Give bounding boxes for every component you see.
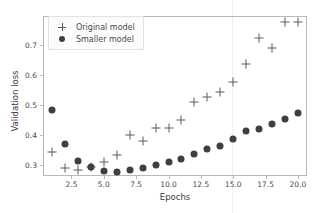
y-tick-label: 0.3	[25, 160, 37, 169]
y-tick	[40, 45, 43, 46]
x-tick-label: 17.5	[257, 180, 274, 189]
x-tick	[298, 176, 299, 179]
x-tick-label: 5.0	[98, 180, 110, 189]
x-tick-label: 7.5	[130, 180, 142, 189]
y-tick	[40, 75, 43, 76]
x-tick	[136, 176, 137, 179]
x-tick-label: 10.0	[160, 180, 177, 189]
x-tick	[169, 176, 170, 179]
legend-item-smaller-model: Smaller model	[54, 33, 135, 45]
legend-item-original-model: Original model	[54, 21, 135, 33]
legend-label: Smaller model	[70, 35, 134, 44]
x-axis-label: Epochs	[43, 192, 307, 202]
x-tick	[201, 176, 202, 179]
x-tick	[104, 176, 105, 179]
y-tick	[40, 105, 43, 106]
y-tick-label: 0.4	[25, 130, 37, 139]
y-tick-label: 0.6	[25, 71, 37, 80]
dot-marker-icon	[54, 33, 70, 45]
y-tick	[40, 135, 43, 136]
y-axis-label: Validation loss	[10, 51, 20, 151]
x-tick-label: 20.0	[290, 180, 307, 189]
matplotlib-figure: 2.55.07.510.012.515.017.520.00.30.40.50.…	[0, 0, 320, 213]
chart-legend: Original model Smaller model	[48, 16, 144, 50]
y-tick-label: 0.5	[25, 101, 37, 110]
x-tick	[233, 176, 234, 179]
x-tick	[71, 176, 72, 179]
x-tick-label: 12.5	[193, 180, 210, 189]
x-tick	[266, 176, 267, 179]
legend-label: Original model	[70, 23, 135, 32]
y-tick-label: 0.7	[25, 41, 37, 50]
x-tick-label: 15.0	[225, 180, 242, 189]
y-tick	[40, 165, 43, 166]
x-tick-label: 2.5	[66, 180, 78, 189]
plus-marker-icon	[54, 21, 70, 33]
